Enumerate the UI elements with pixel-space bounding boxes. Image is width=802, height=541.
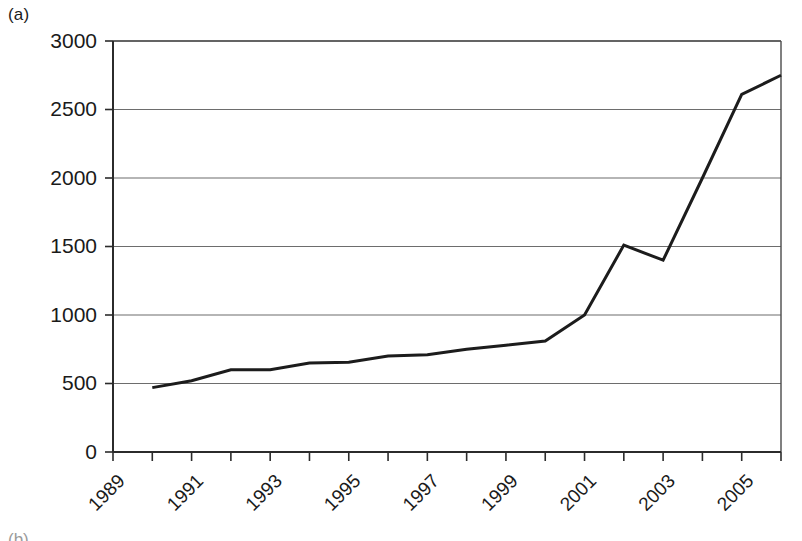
data-series (152, 75, 781, 387)
line-chart: 050010001500200025003000 198919911993199… (0, 0, 802, 541)
y-tick-label: 3000 (50, 29, 97, 52)
x-tick-label: 1997 (398, 470, 443, 515)
x-tick-label: 1993 (241, 470, 286, 515)
x-tick-marks (113, 452, 781, 461)
x-tick-label: 2001 (556, 470, 601, 515)
gridlines (113, 41, 781, 384)
y-axis-tick-labels: 050010001500200025003000 (50, 29, 97, 463)
x-tick-label: 1999 (477, 470, 522, 515)
y-tick-label: 1500 (50, 234, 97, 257)
x-tick-label: 2003 (634, 470, 679, 515)
figure-panel: (a) (b) 050010001500200025003000 1989199… (0, 0, 802, 541)
y-tick-label: 1000 (50, 303, 97, 326)
x-axis-tick-labels: 198919911993199519971999200120032005 (84, 470, 757, 515)
y-tick-label: 500 (62, 371, 97, 394)
series-line (152, 75, 781, 387)
y-tick-marks (105, 41, 113, 452)
y-tick-label: 2000 (50, 166, 97, 189)
x-tick-label: 1991 (163, 470, 208, 515)
y-tick-label: 2500 (50, 97, 97, 120)
x-tick-label: 1995 (320, 470, 365, 515)
x-tick-label: 2005 (713, 470, 758, 515)
y-tick-label: 0 (85, 440, 97, 463)
x-tick-label: 1989 (84, 470, 129, 515)
